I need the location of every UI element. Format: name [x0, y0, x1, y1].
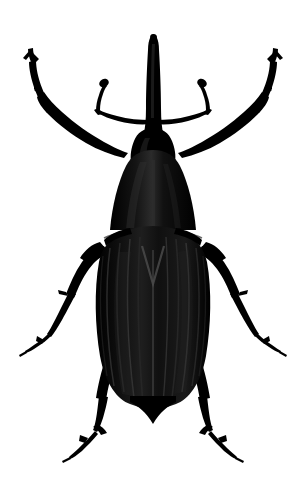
specimen-image — [0, 0, 306, 495]
pronotum-midline — [152, 160, 155, 230]
weevil-illustration — [0, 0, 306, 495]
